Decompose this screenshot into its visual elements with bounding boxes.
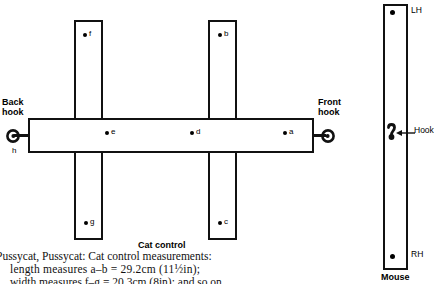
cat-point-dot-e — [105, 131, 109, 135]
front-hook-label-line1: Front — [318, 97, 341, 107]
cat-point-dot-f — [83, 33, 87, 37]
mouse-point-dot-lh — [390, 10, 395, 15]
cat-point-label-f: f — [89, 29, 91, 38]
cat-point-label-d: d — [196, 127, 200, 136]
measurements-line-1: Pussycat, Pussycat: Cat control measurem… — [0, 250, 260, 263]
measurements-line-3: width measures f–g = 20.3cm (8in); and s… — [10, 276, 270, 284]
measurements-line-3-clipped: width measures f–g = 20.3cm (8in); and s… — [0, 276, 270, 284]
back-hook-label-line1: Back — [2, 97, 24, 107]
cat-point-dot-b — [218, 33, 222, 37]
back-hook-icon — [6, 126, 32, 146]
measurements-text-block: Pussycat, Pussycat: Cat control measurem… — [0, 250, 260, 276]
mouse-hook-label: Hook — [414, 126, 434, 135]
mouse-point-label-rh: RH — [411, 250, 423, 259]
cat-point-label-b: b — [224, 29, 228, 38]
back-hook-label-line2: hook — [2, 107, 24, 117]
cat-point-label-h: h — [12, 146, 16, 155]
cat-main-bar — [28, 118, 314, 153]
cat-point-label-a: a — [289, 127, 293, 136]
cat-control-caption: Cat control — [138, 240, 186, 250]
mouse-point-dot-rh — [390, 254, 395, 259]
cat-point-label-c: c — [224, 217, 228, 226]
mouse-point-label-lh: LH — [411, 6, 422, 15]
front-hook-icon — [310, 126, 336, 146]
mouse-hook-arrow-icon — [396, 125, 416, 137]
cat-point-label-e: e — [111, 127, 115, 136]
cat-point-dot-a — [283, 131, 287, 135]
measurements-line-2: length measures a–b = 29.2cm (11½in); — [10, 263, 260, 276]
cat-point-dot-g — [84, 221, 88, 225]
cat-point-dot-d — [190, 131, 194, 135]
mouse-caption: Mouse — [381, 272, 410, 282]
front-hook-label-line2: hook — [318, 107, 340, 117]
cat-point-dot-c — [218, 221, 222, 225]
cat-point-label-g: g — [90, 217, 94, 226]
